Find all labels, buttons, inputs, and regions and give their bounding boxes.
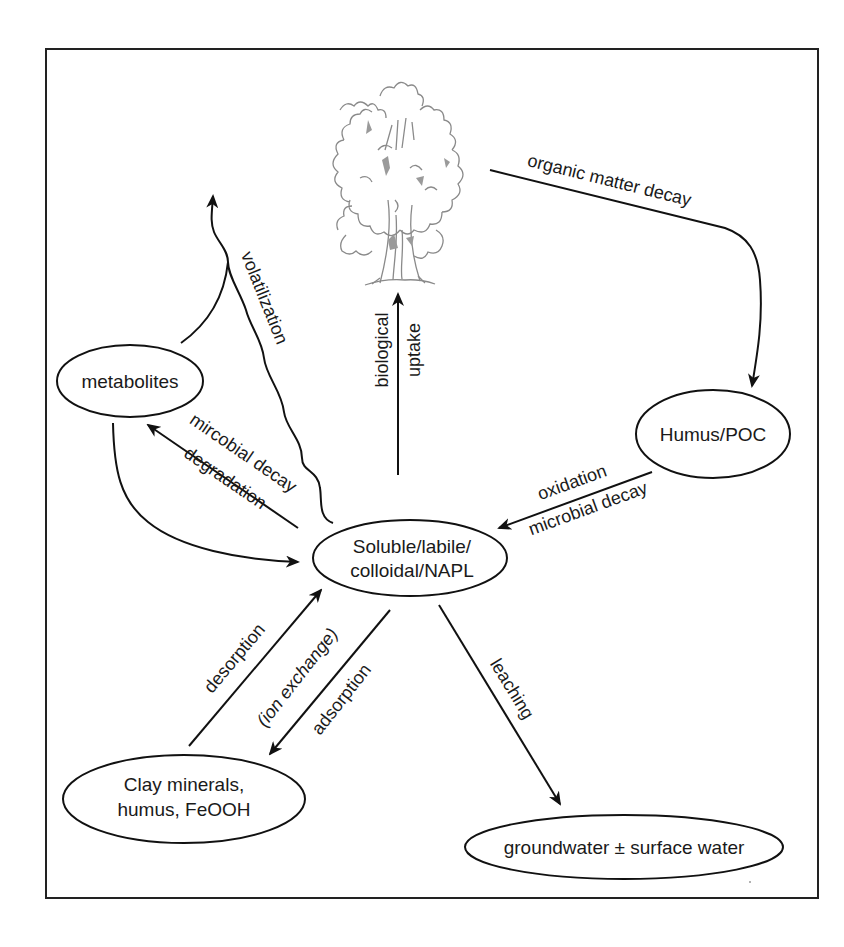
edge-biological-uptake: biological uptake (372, 294, 424, 475)
uptake-label: uptake (404, 323, 424, 377)
edge-leaching: leaching (439, 605, 560, 804)
metabolites-node: metabolites (57, 345, 203, 417)
clay-node: Clay minerals, humus, FeOOH (63, 755, 305, 843)
humus-poc-label: Humus/POC (660, 424, 767, 445)
edge-oxidation: oxidation microbial decay (499, 461, 652, 540)
groundwater-node: groundwater ± surface water (465, 815, 783, 879)
edge-organic-matter-decay: organic matter decay (490, 150, 761, 386)
groundwater-label: groundwater ± surface water (504, 837, 745, 858)
metabolites-label: metabolites (81, 371, 178, 392)
edge-microbial-degradation: mircobial decay degradation (148, 409, 301, 528)
clay-label-line2: humus, FeOOH (117, 799, 250, 820)
desorption-label: desorption (200, 620, 269, 697)
adsorption-label: adsorption (308, 660, 376, 739)
tree-icon (333, 82, 463, 285)
soluble-label-line2: colloidal/NAPL (350, 560, 474, 581)
biological-label: biological (372, 312, 392, 387)
soluble-node: Soluble/labile/ colloidal/NAPL (313, 520, 507, 596)
speck (749, 881, 751, 883)
leaching-label: leaching (486, 655, 538, 723)
humus-poc-node: Humus/POC (636, 390, 790, 478)
soluble-label-line1: Soluble/labile/ (353, 536, 472, 557)
volatilization-label: volatilization (237, 249, 292, 347)
organic-matter-decay-label: organic matter decay (525, 150, 693, 210)
diagram-canvas: metabolites Humus/POC Soluble/labile/ co… (0, 0, 844, 947)
edge-metabolites-return (113, 423, 298, 562)
clay-label-line1: Clay minerals, (124, 774, 244, 795)
